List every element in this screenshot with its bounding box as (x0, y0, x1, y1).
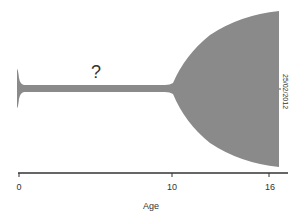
x-tick-label-10: 10 (167, 182, 177, 192)
chart: 25/02/2012 ? 0 10 16 Age (0, 0, 307, 215)
x-axis-title: Age (143, 201, 159, 211)
date-label: 25/02/2012 (282, 74, 289, 109)
age-distribution-shape (17, 11, 279, 167)
question-annotation: ? (91, 62, 101, 82)
x-tick-label-16: 16 (265, 182, 275, 192)
x-tick-label-0: 0 (16, 182, 21, 192)
